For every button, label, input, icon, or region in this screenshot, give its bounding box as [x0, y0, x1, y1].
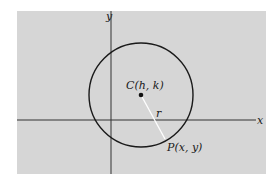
radius-label: r	[156, 107, 162, 120]
center-point	[139, 93, 144, 98]
circle-diagram: y x C(h, k) r P(x, y)	[0, 0, 278, 184]
x-axis-label: x	[257, 114, 264, 127]
point-label: P(x, y)	[166, 141, 202, 154]
plot-background	[17, 11, 266, 174]
center-label: C(h, k)	[126, 79, 164, 92]
y-axis-label: y	[105, 10, 113, 23]
